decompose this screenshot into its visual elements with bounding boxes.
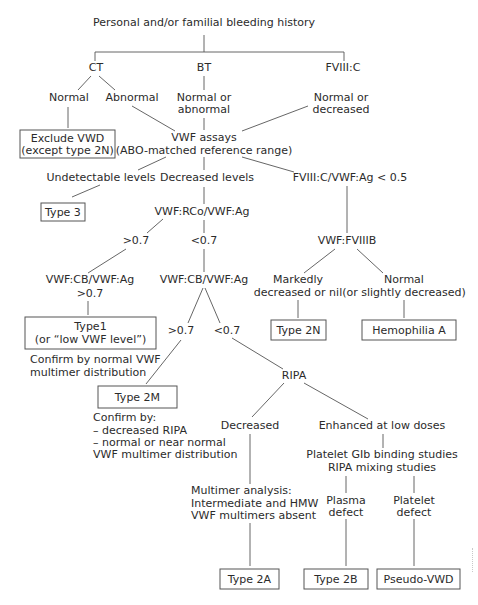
box-pseudo-vwd: Pseudo-VWD [377, 569, 460, 589]
node-ripa: RIPA [282, 369, 307, 382]
node-fviiib-normal-line2: (or slightly decreased) [342, 286, 466, 299]
box-type-1-line2: (or “low VWF level”) [35, 333, 146, 346]
vwd-diagnostic-flowchart: Personal and/or familial bleeding histor… [0, 0, 478, 605]
node-plasma-defect-line2: defect [329, 506, 364, 519]
node-studies-line1: Platelet GIb binding studies [306, 448, 458, 461]
box-exclude-vwd-line2: (except type 2N) [21, 144, 113, 157]
scan-artifact-marks [472, 548, 477, 572]
box-type-1: Type1 (or “low VWF level”) [25, 317, 156, 349]
node-cb-gt: >0.7 [168, 324, 195, 337]
type2m-confirm-line4: VWF multimer distribution [93, 448, 238, 461]
node-fviii-c: FVIII:C [326, 61, 361, 74]
node-rco-ratio: VWF:RCo/VWF:Ag [155, 205, 250, 218]
node-bt: BT [197, 61, 212, 74]
box-type-2b: Type 2B [304, 569, 368, 589]
box-hemophilia-a-label: Hemophilia A [372, 324, 446, 337]
node-fviiib: VWF:FVIIIB [318, 234, 377, 247]
node-platelet-defect-line2: defect [397, 506, 432, 519]
node-rco-gt: >0.7 [123, 234, 150, 247]
node-ripa-enhanced: Enhanced at low doses [319, 419, 446, 432]
box-exclude-vwd: Exclude VWD (except type 2N) [20, 130, 115, 158]
box-type-2n: Type 2N [271, 320, 326, 340]
node-multimer-line3: VWF multimers absent [191, 509, 317, 522]
node-ct: CT [89, 61, 104, 74]
node-markedly-line2: decreased or nil [254, 286, 342, 299]
box-hemophilia-a: Hemophilia A [362, 320, 456, 340]
node-cb-mid: VWF:CB/VWF:Ag [160, 273, 249, 286]
node-cb-left-line2: >0.7 [77, 287, 104, 300]
node-fviii-result-line2: decreased [312, 103, 369, 116]
type1-confirm-line1: Confirm by normal VWF [30, 353, 161, 366]
box-type-2b-label: Type 2B [313, 573, 357, 586]
node-vwf-assays-line1: VWF assays [171, 131, 237, 144]
box-type-2a: Type 2A [220, 569, 279, 589]
node-decreased-levels: Decreased levels [160, 171, 254, 184]
node-fviii-vwf-ratio: FVIII:C/VWF:Ag < 0.5 [293, 171, 407, 184]
node-ripa-decreased: Decreased [221, 419, 280, 432]
node-ct-normal: Normal [49, 91, 89, 104]
type1-confirm-line2: multimer distribution [30, 366, 146, 379]
node-fviiib-normal-line1: Normal [384, 273, 424, 286]
node-ct-abnormal: Abnormal [105, 91, 158, 104]
box-type-2n-label: Type 2N [276, 324, 321, 337]
box-type-2m: Type 2M [98, 386, 177, 408]
node-cb-lt: <0.7 [214, 324, 241, 337]
node-cb-left-line1: VWF:CB/VWF:Ag [46, 273, 135, 286]
node-undetectable-levels: Undetectable levels [46, 171, 155, 184]
box-type-1-line1: Type1 [73, 320, 106, 333]
node-multimer-line1: Multimer analysis: [191, 484, 292, 497]
box-pseudo-vwd-label: Pseudo-VWD [383, 573, 453, 586]
node-markedly-line1: Markedly [273, 273, 324, 286]
node-vwf-assays-line2: (ABO-matched reference range) [116, 144, 292, 157]
type2m-confirm-line1: Confirm by: [93, 411, 156, 424]
box-type-2a-label: Type 2A [227, 573, 272, 586]
box-type-2m-label: Type 2M [114, 391, 160, 404]
node-studies-line2: RIPA mixing studies [328, 461, 436, 474]
node-rco-lt: <0.7 [191, 234, 218, 247]
node-bt-result-line2: abnormal [178, 103, 230, 116]
box-type-3-label: Type 3 [44, 206, 81, 219]
box-type-3: Type 3 [41, 203, 85, 221]
title-bleeding-history: Personal and/or familial bleeding histor… [93, 16, 316, 29]
